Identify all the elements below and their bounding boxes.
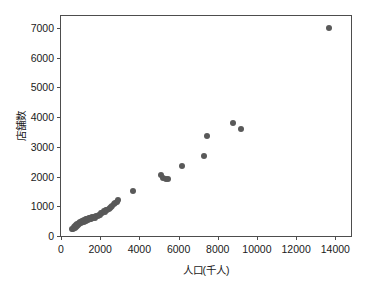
y-axis-tick-label: 1000: [31, 200, 54, 212]
scatter-point: [130, 188, 136, 194]
x-axis-tick-mark: [139, 236, 140, 240]
y-axis-tick-mark: [57, 87, 61, 88]
x-axis-tick-mark: [100, 236, 101, 240]
y-axis-tick-mark: [57, 177, 61, 178]
x-axis-tick-label: 12000: [282, 243, 311, 255]
scatter-point: [204, 133, 210, 139]
y-axis-tick-label: 2000: [31, 171, 54, 183]
x-axis-tick-mark: [257, 236, 258, 240]
scatter-point: [230, 120, 236, 126]
x-axis-tick-mark: [296, 236, 297, 240]
y-axis-tick-label: 0: [48, 230, 54, 242]
y-axis-tick-label: 7000: [31, 22, 54, 34]
x-axis-tick-mark: [61, 236, 62, 240]
y-axis-tick-label: 4000: [31, 111, 54, 123]
x-axis-tick-label: 14000: [321, 243, 350, 255]
scatter-point: [201, 153, 207, 159]
y-axis-tick-mark: [57, 117, 61, 118]
scatter-point: [326, 25, 332, 31]
y-axis-tick-label: 3000: [31, 141, 54, 153]
x-axis-title: 人口(千人): [60, 262, 352, 277]
x-axis-tick-label: 6000: [167, 243, 190, 255]
data-points-layer: [61, 16, 351, 236]
x-axis-tick-mark: [335, 236, 336, 240]
x-axis-tick-label: 0: [58, 243, 64, 255]
x-axis-tick-label: 8000: [206, 243, 229, 255]
y-axis-title: 店舗数: [13, 111, 28, 141]
y-axis-tick-label: 6000: [31, 52, 54, 64]
plot-area: 0100020003000400050006000700002000400060…: [60, 15, 352, 237]
y-axis-tick-mark: [57, 28, 61, 29]
x-axis-tick-mark: [179, 236, 180, 240]
y-axis-tick-mark: [57, 147, 61, 148]
y-axis-tick-mark: [57, 58, 61, 59]
scatter-point: [165, 176, 171, 182]
scatter-point: [179, 163, 185, 169]
x-axis-tick-label: 2000: [89, 243, 112, 255]
scatter-point: [238, 126, 244, 132]
y-axis-tick-label: 5000: [31, 81, 54, 93]
scatter-chart-figure: 0100020003000400050006000700002000400060…: [0, 0, 373, 284]
y-axis-tick-mark: [57, 206, 61, 207]
x-axis-tick-label: 10000: [242, 243, 271, 255]
x-axis-tick-label: 4000: [128, 243, 151, 255]
x-axis-tick-mark: [218, 236, 219, 240]
